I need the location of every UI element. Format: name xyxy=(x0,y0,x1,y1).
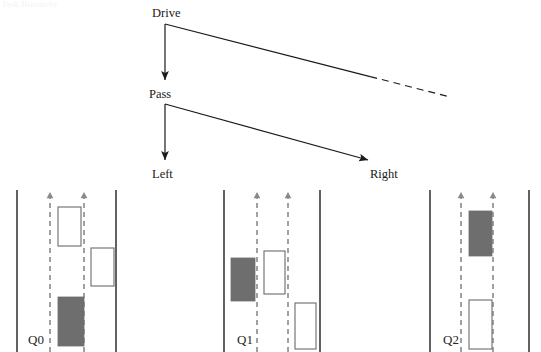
tree-edge-drive-to-open-dashed-part xyxy=(370,77,450,97)
tree-edge-drive-to-open-solid-part xyxy=(165,24,370,77)
scenario-panel-q2 xyxy=(430,190,529,352)
scenario-graphics xyxy=(17,190,529,352)
tree-node-drive: Drive xyxy=(152,7,180,20)
scenario-label-q2: Q2 xyxy=(443,333,459,346)
scenario-panel-q1 xyxy=(224,190,320,352)
lane-direction-arrow-icon-1-q1 xyxy=(254,192,261,198)
scenario-panel-q0 xyxy=(17,190,116,352)
tree-node-pass: Pass xyxy=(149,88,171,101)
decision-tree-diagram xyxy=(0,0,541,352)
ego-vehicle-3-q0 xyxy=(58,297,84,346)
other-vehicle-3-q1 xyxy=(295,303,316,349)
lane-direction-arrow-icon-1-q2 xyxy=(458,192,465,198)
ego-vehicle-1-q1 xyxy=(231,258,255,301)
figure-canvas: Task Hierarchy DrivePassLeftRight Q0Q1Q2 xyxy=(0,0,541,352)
other-vehicle-1-q0 xyxy=(58,207,81,246)
scenario-label-q0: Q0 xyxy=(28,333,44,346)
scenario-label-q1: Q1 xyxy=(237,333,253,346)
ego-vehicle-1-q2 xyxy=(469,211,492,256)
tree-node-left: Left xyxy=(152,168,173,181)
other-vehicle-2-q0 xyxy=(91,248,114,286)
decision-tree-edges xyxy=(165,24,450,160)
lane-direction-arrow-icon-2-q0 xyxy=(81,192,88,198)
lane-direction-arrow-icon-2-q2 xyxy=(490,192,497,198)
other-vehicle-2-q2 xyxy=(469,300,492,349)
lane-direction-arrow-icon-2-q1 xyxy=(285,192,292,198)
lane-direction-arrow-icon-1-q0 xyxy=(47,192,54,198)
tree-edge-pass-to-right xyxy=(165,104,368,160)
tree-node-right: Right xyxy=(370,168,398,181)
other-vehicle-2-q1 xyxy=(264,251,285,294)
